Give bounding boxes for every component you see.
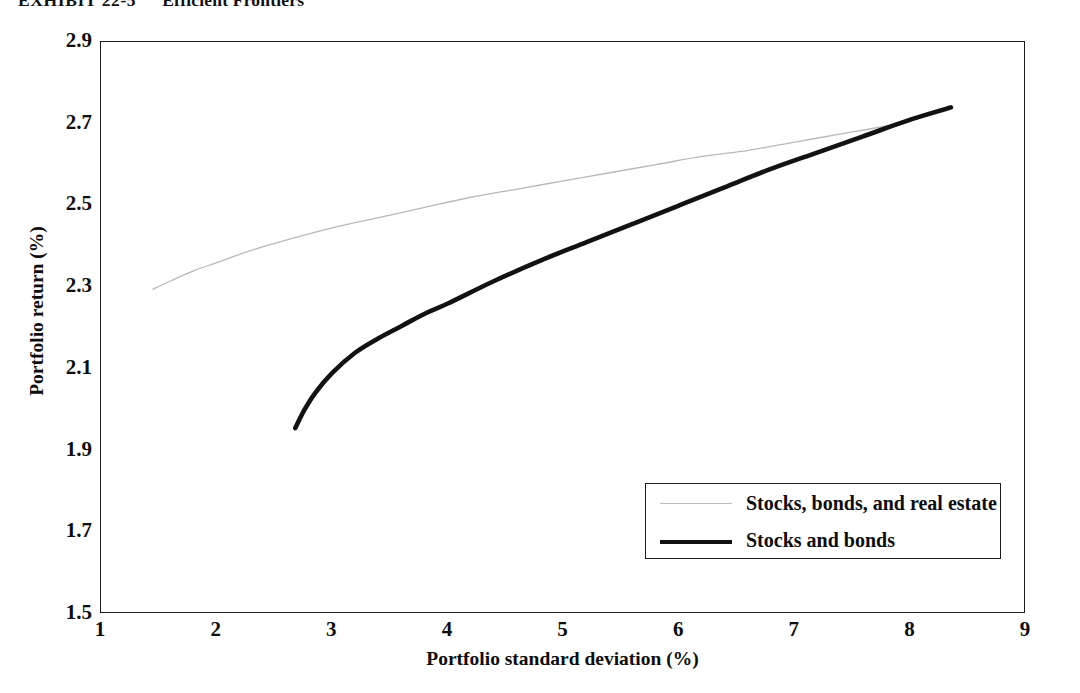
y-tick-label: 2.1 bbox=[46, 357, 92, 378]
efficient-frontier-chart: Portfolio return (%) 1.51.71.92.12.32.52… bbox=[0, 0, 1080, 693]
x-tick-label: 3 bbox=[311, 618, 351, 640]
legend-entry-stocks-and-bonds: Stocks and bonds bbox=[646, 521, 1002, 559]
y-tick-label: 1.7 bbox=[46, 520, 92, 541]
x-tick-label: 8 bbox=[889, 618, 929, 640]
y-axis-title: Portfolio return (%) bbox=[26, 151, 48, 471]
x-tick-label: 7 bbox=[774, 618, 814, 640]
x-axis-title: Portfolio standard deviation (%) bbox=[100, 648, 1025, 670]
y-tick-label: 2.5 bbox=[46, 193, 92, 214]
legend-swatch-gray-line-icon bbox=[660, 496, 732, 510]
x-tick-label: 6 bbox=[658, 618, 698, 640]
legend-entry-stocks-bonds-real-estate: Stocks, bonds, and real estate bbox=[646, 484, 1002, 522]
legend-label: Stocks, bonds, and real estate bbox=[746, 492, 997, 515]
x-tick-label: 4 bbox=[427, 618, 467, 640]
y-tick-label: 2.7 bbox=[46, 112, 92, 133]
series-line-1 bbox=[295, 107, 951, 428]
x-tick-label: 1 bbox=[80, 618, 120, 640]
x-tick-label: 9 bbox=[1005, 618, 1045, 640]
x-tick-label: 2 bbox=[196, 618, 236, 640]
legend-label: Stocks and bonds bbox=[746, 529, 895, 552]
x-tick-label: 5 bbox=[543, 618, 583, 640]
chart-legend: Stocks, bonds, and real estate Stocks an… bbox=[645, 483, 1001, 559]
legend-swatch-black-line-icon bbox=[660, 533, 732, 547]
y-tick-label: 2.9 bbox=[46, 30, 92, 51]
series-line-0 bbox=[153, 109, 951, 289]
y-tick-label: 1.9 bbox=[46, 439, 92, 460]
y-tick-label: 2.3 bbox=[46, 275, 92, 296]
